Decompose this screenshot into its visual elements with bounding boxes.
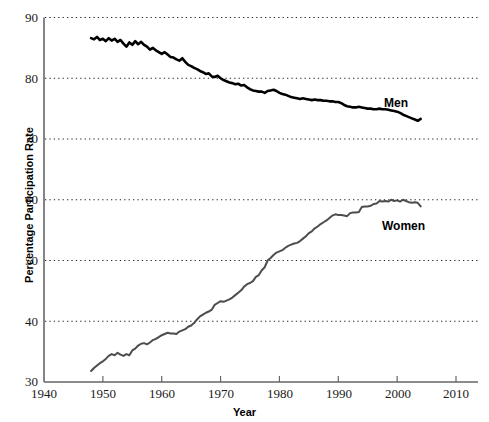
xtick-label-1940: 1940 — [20, 386, 68, 402]
xtick-label-1990: 1990 — [315, 386, 363, 402]
x-axis-title-wrapper: Year — [0, 402, 489, 420]
series-label-women: Women — [382, 219, 425, 233]
xtick-label-2010: 2010 — [432, 386, 480, 402]
participation-rate-chart: 90 80 70 60 50 40 30 1940 1950 1960 1970… — [0, 0, 489, 422]
xtick-label-1950: 1950 — [79, 386, 127, 402]
x-axis-title: Year — [233, 406, 256, 418]
series-line-men — [91, 37, 421, 121]
series-line-women — [91, 200, 421, 371]
xtick-label-1980: 1980 — [256, 386, 304, 402]
gridlines-group — [45, 18, 478, 322]
xtick-label-1970: 1970 — [197, 386, 245, 402]
xtick-label-2000: 2000 — [374, 386, 422, 402]
series-label-men: Men — [384, 96, 408, 110]
axis-ticks-group — [103, 376, 456, 382]
chart-canvas — [0, 0, 489, 422]
xtick-label-1960: 1960 — [138, 386, 186, 402]
y-axis-title: Percentage Participation Rate — [23, 127, 35, 283]
y-axis-title-wrapper: Percentage Participation Rate — [19, 85, 37, 325]
ytick-label-90: 90 — [8, 10, 38, 26]
